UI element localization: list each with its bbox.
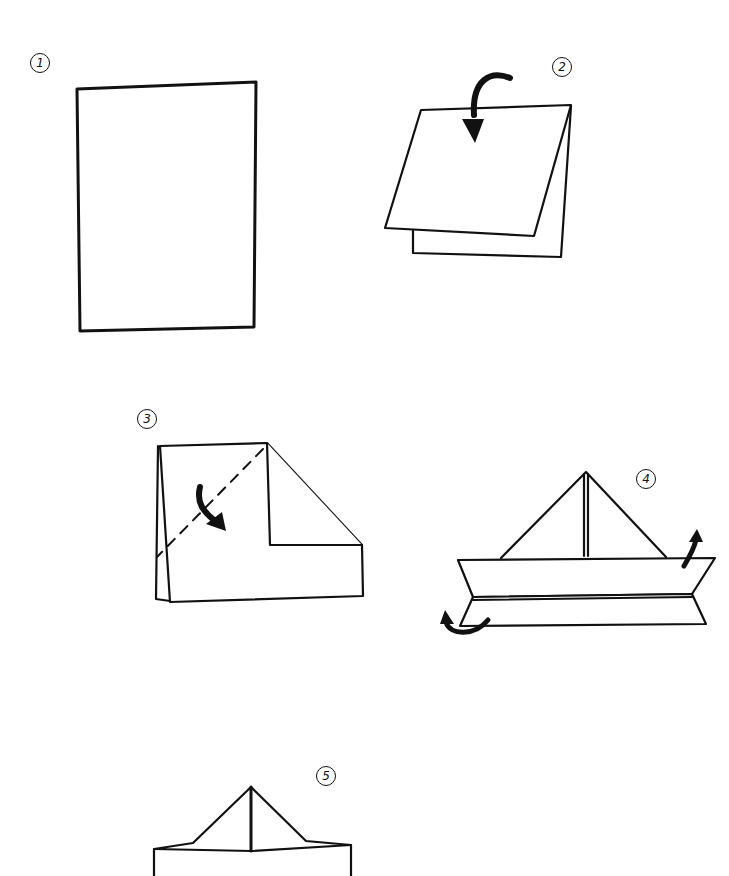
step-number-5: 5 bbox=[316, 766, 336, 786]
step-number-1: 1 bbox=[30, 53, 50, 73]
step-4-boat bbox=[458, 472, 715, 626]
step-number-3: 3 bbox=[137, 409, 157, 429]
step-3-corner-fold bbox=[156, 443, 363, 602]
step-5-open-shape bbox=[154, 787, 351, 876]
step-number-2: 2 bbox=[552, 57, 572, 77]
folding-diagram bbox=[0, 0, 729, 876]
step-number-4: 4 bbox=[636, 469, 656, 489]
step-1-sheet bbox=[77, 82, 256, 331]
